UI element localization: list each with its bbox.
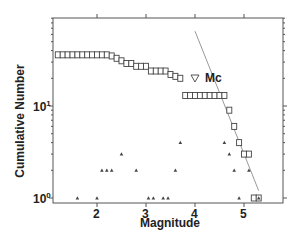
mc-annotation: Mc — [205, 71, 222, 85]
noncumulative-series — [76, 141, 261, 200]
y-tick-base: 10 — [33, 192, 46, 206]
y-tick-exp: 0 — [46, 191, 50, 200]
mc-marker-icon — [191, 75, 199, 82]
plot-axes — [49, 14, 287, 207]
x-tick-2: 2 — [93, 207, 100, 221]
y-tick-exp: 1 — [46, 99, 50, 108]
fmd-chart — [0, 0, 299, 246]
y-tick-10-1: 101 — [33, 99, 51, 114]
y-tick-base: 10 — [33, 100, 46, 114]
x-tick-4: 4 — [191, 207, 198, 221]
y-axis-label: Cumulative Number — [13, 51, 27, 191]
x-tick-3: 3 — [142, 207, 149, 221]
x-tick-5: 5 — [240, 207, 247, 221]
y-tick-10-0: 100 — [33, 191, 51, 206]
x-axis-label: Magnitude — [120, 216, 220, 230]
cumulative-series — [55, 52, 261, 201]
